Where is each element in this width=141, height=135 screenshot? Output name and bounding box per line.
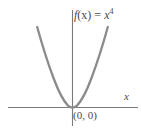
plot-canvas (0, 0, 141, 135)
origin-point-label: (0, 0) (73, 110, 97, 121)
function-expression-label: f(x) = x4 (74, 9, 113, 21)
function-exponent: 4 (109, 7, 113, 16)
function-equals-sign: = (91, 8, 104, 22)
function-argument: (x) (77, 8, 91, 22)
function-graph-figure: f(x) = x4 x (0, 0) (0, 0, 141, 135)
x-axis-label: x (124, 91, 129, 102)
